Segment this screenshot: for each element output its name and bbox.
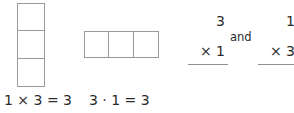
unit-square	[84, 31, 109, 58]
multiplier-line: × 1	[188, 44, 228, 61]
answer-rule	[258, 64, 294, 65]
vertical-multiplication-group: 3 × 1 and 1 × 3	[186, 14, 294, 66]
multiplicand: 1	[258, 14, 294, 31]
equation-row: 3 · 1 = 3	[89, 93, 150, 107]
unit-square	[134, 31, 159, 58]
column-array-model	[17, 3, 45, 87]
row-array-model	[84, 31, 159, 58]
unit-square	[17, 59, 45, 87]
vertical-problem-right: 1 × 3	[258, 14, 294, 65]
conjunction-label: and	[230, 32, 252, 44]
unit-square	[17, 3, 45, 31]
multiplicand: 3	[188, 14, 228, 31]
answer-rule	[188, 64, 228, 65]
math-figure: 3 × 1 and 1 × 3 1 × 3 = 3 3 · 1 = 3	[0, 0, 294, 113]
equation-column: 1 × 3 = 3	[4, 93, 72, 107]
unit-square	[109, 31, 134, 58]
unit-square	[17, 31, 45, 59]
vertical-problem-left: 3 × 1	[188, 14, 228, 65]
multiplier-line: × 3	[258, 44, 294, 61]
